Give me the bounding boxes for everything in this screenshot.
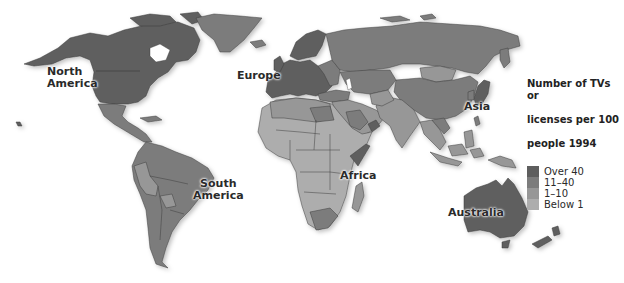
label-asia: Asia	[464, 101, 490, 113]
label-north-america: North America	[47, 66, 98, 90]
legend-swatch	[527, 166, 539, 177]
legend-label: Over 40	[544, 166, 584, 177]
legend-swatch	[527, 188, 539, 199]
legend-item-11-40: 11–40	[527, 177, 624, 188]
region-russia	[326, 22, 520, 74]
label-africa-text: Africa	[340, 169, 376, 182]
label-north-america-line2: America	[47, 78, 98, 90]
legend-label: Below 1	[544, 199, 584, 210]
label-south-america-line2: America	[193, 190, 244, 202]
legend-label: 1–10	[544, 188, 568, 199]
label-africa: Africa	[340, 170, 376, 182]
label-australia: Australia	[448, 207, 504, 219]
legend-swatch	[527, 177, 539, 188]
legend-label: 11–40	[544, 177, 574, 188]
greenland	[196, 14, 262, 52]
legend-title-line3: people 1994	[527, 138, 624, 150]
legend-item-below-1: Below 1	[527, 199, 624, 210]
legend-items: Over 40 11–40 1–10 Below 1	[527, 166, 624, 210]
legend-title-line1: Number of TVs or	[527, 78, 624, 102]
region-north-america	[24, 22, 200, 104]
label-south-america: South America	[193, 178, 244, 202]
legend-item-over-40: Over 40	[527, 166, 624, 177]
legend-title: Number of TVs or licenses per 100 people…	[527, 66, 624, 162]
label-europe: Europe	[237, 70, 281, 82]
label-europe-text: Europe	[237, 69, 281, 82]
map-legend: Number of TVs or licenses per 100 people…	[527, 66, 624, 210]
label-australia-text: Australia	[448, 206, 504, 219]
label-asia-text: Asia	[464, 100, 490, 113]
legend-title-line2: licenses per 100	[527, 114, 624, 126]
region-central-america	[98, 104, 152, 142]
legend-item-1-10: 1–10	[527, 188, 624, 199]
legend-swatch	[527, 199, 539, 210]
